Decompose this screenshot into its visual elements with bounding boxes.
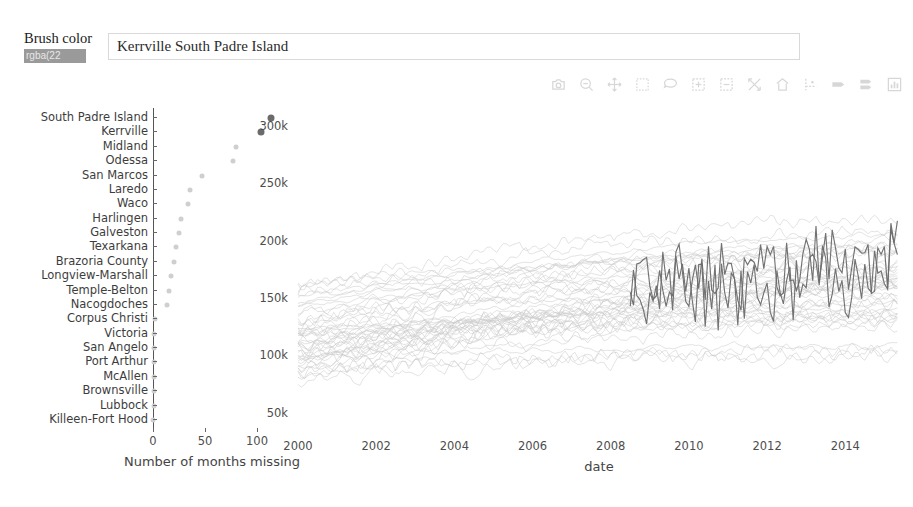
x-axis-title-right: date (584, 459, 613, 474)
selected-cities-text: Kerrville South Padre Island (109, 34, 799, 59)
timeseries-line-highlighted[interactable] (630, 221, 897, 310)
timeseries-line (298, 342, 897, 361)
brush-color-label: Brush color (24, 30, 110, 46)
x-axis-title-left: Number of months missing (124, 454, 300, 469)
brush-color-widget: Brush color rgba(22 (24, 30, 110, 63)
timeseries-lines (0, 60, 913, 480)
timeseries-line (298, 314, 897, 380)
timeseries-line (298, 345, 897, 387)
timeseries-line-highlighted[interactable] (630, 229, 897, 331)
plot-container[interactable]: South Padre IslandKerrvilleMidlandOdessa… (0, 60, 913, 480)
selected-cities-box[interactable]: Kerrville South Padre Island (108, 33, 800, 60)
